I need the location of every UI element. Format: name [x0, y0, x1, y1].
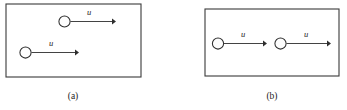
panel-a-border — [6, 4, 141, 77]
velocity-label-a-top: u — [87, 7, 91, 17]
particle-b-right — [275, 38, 286, 49]
velocity-label-a-bottom: u — [49, 38, 53, 48]
velocity-label-b-left: u — [241, 29, 245, 39]
particle-a-top — [59, 16, 70, 27]
physics-figure: u u (a) u — [0, 0, 347, 110]
particle-a-bottom — [20, 47, 31, 58]
panel-a: u u (a) — [6, 4, 141, 102]
velocity-label-b-right: u — [304, 29, 308, 39]
figure-container: u u (a) u — [0, 0, 347, 110]
panel-b-caption: (b) — [266, 91, 277, 102]
panel-a-caption: (a) — [68, 91, 79, 102]
particle-b-left — [212, 38, 223, 49]
panel-b-border — [205, 9, 339, 76]
panel-b: u u (b) — [205, 9, 339, 102]
